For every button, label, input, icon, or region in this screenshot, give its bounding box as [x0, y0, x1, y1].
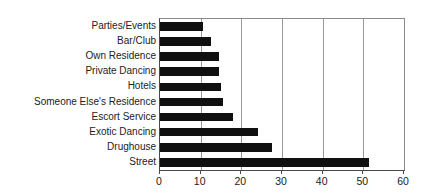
bar: [160, 113, 233, 122]
bar-row: [160, 110, 404, 125]
category-label: Hotels: [0, 80, 156, 91]
bar-row: [160, 155, 404, 170]
category-label: Bar/Club: [0, 35, 156, 46]
x-tick-mark: [322, 170, 323, 174]
bar: [160, 128, 258, 137]
x-tick-label: 50: [350, 175, 374, 187]
x-tick-label: 60: [391, 175, 415, 187]
category-label: Someone Else's Residence: [0, 96, 156, 107]
category-label: Exotic Dancing: [0, 126, 156, 137]
category-label: Private Dancing: [0, 65, 156, 76]
bar-row: [160, 79, 404, 94]
bar: [160, 52, 219, 61]
x-tick-mark: [240, 170, 241, 174]
bar-row: [160, 64, 404, 79]
x-tick-label: 10: [188, 175, 212, 187]
bar-row: [160, 125, 404, 140]
x-tick-label: 0: [147, 175, 171, 187]
bar-row: [160, 140, 404, 155]
bar: [160, 143, 272, 152]
horizontal-bar-chart: Parties/EventsBar/ClubOwn ResidencePriva…: [0, 0, 422, 193]
x-tick-mark: [200, 170, 201, 174]
x-tick-mark: [362, 170, 363, 174]
category-label: Escort Service: [0, 111, 156, 122]
bar-row: [160, 95, 404, 110]
x-tick-mark: [403, 170, 404, 174]
bar-row: [160, 19, 404, 34]
category-label: Parties/Events: [0, 20, 156, 31]
category-label: Street: [0, 156, 156, 167]
bar-row: [160, 49, 404, 64]
bar: [160, 22, 203, 31]
x-tick-label: 40: [310, 175, 334, 187]
x-tick-mark: [159, 170, 160, 174]
category-label: Own Residence: [0, 50, 156, 61]
bar: [160, 37, 211, 46]
bar: [160, 83, 221, 92]
plot-area: [159, 18, 405, 171]
bar: [160, 158, 369, 167]
bar: [160, 67, 219, 76]
x-tick-mark: [281, 170, 282, 174]
bar-row: [160, 34, 404, 49]
x-tick-label: 30: [269, 175, 293, 187]
bar: [160, 98, 223, 107]
x-tick-label: 20: [228, 175, 252, 187]
category-label: Drughouse: [0, 141, 156, 152]
